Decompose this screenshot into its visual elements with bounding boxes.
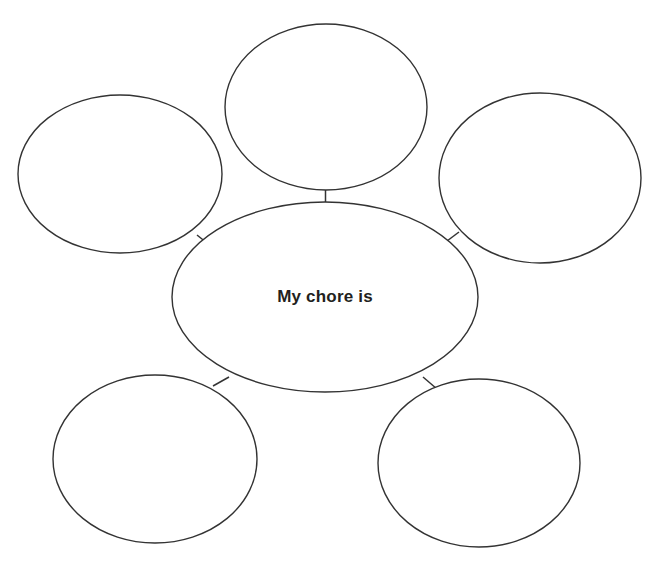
branch-oval-top[interactable] [225, 24, 427, 190]
branch-oval-upper-left[interactable] [18, 95, 222, 253]
center-topic-label: My chore is [277, 287, 373, 306]
branch-oval-lower-left[interactable] [53, 375, 257, 543]
branch-bubble-top[interactable] [225, 24, 427, 190]
branch-bubble-lower-right[interactable] [378, 379, 580, 547]
graphic-organizer-canvas: My chore is [0, 0, 656, 562]
branch-oval-lower-right[interactable] [378, 379, 580, 547]
center-bubble[interactable]: My chore is [172, 202, 478, 392]
branch-bubble-upper-left[interactable] [18, 95, 222, 253]
branch-bubble-upper-right[interactable] [439, 93, 641, 263]
branch-bubble-lower-left[interactable] [53, 375, 257, 543]
branch-oval-upper-right[interactable] [439, 93, 641, 263]
